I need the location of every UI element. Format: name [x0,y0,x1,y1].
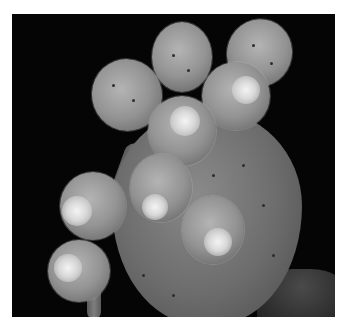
areole [242,164,245,167]
fruit [152,22,212,92]
areole [262,204,265,207]
areole [272,254,275,257]
areole [270,62,273,65]
cactus-photo [12,14,335,317]
areole [112,84,115,87]
fruit-tip [232,76,260,104]
areole [252,44,255,47]
fruit-tip [54,254,82,282]
areole [172,294,175,297]
fruit-tip [170,106,200,136]
areole [172,54,175,57]
areole [142,274,145,277]
areole [187,69,190,72]
fruit-tip [142,194,168,220]
fruit-tip [204,228,232,256]
areole [212,174,215,177]
fruit-tip [62,196,92,226]
areole [132,99,135,102]
